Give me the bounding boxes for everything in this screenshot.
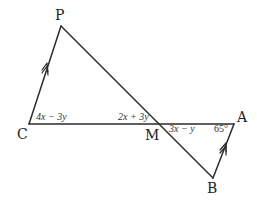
geometry-diagram: P C M A B 4x − 3y 2x + 3y 3x − y 65° — [0, 0, 257, 201]
angle-label-a: 65° — [214, 123, 228, 134]
vertex-label-m: M — [145, 127, 159, 143]
vertex-label-b: B — [207, 180, 217, 196]
angle-label-pmc: 2x + 3y — [118, 111, 149, 122]
angle-label-c: 4x − 3y — [36, 111, 67, 122]
vertex-label-a: A — [236, 109, 248, 125]
vertex-label-c: C — [17, 126, 28, 142]
vertex-label-p: P — [55, 7, 64, 23]
segment-pc — [29, 26, 61, 124]
segment-pb — [61, 26, 213, 178]
angle-label-amb: 3x − y — [168, 123, 195, 134]
